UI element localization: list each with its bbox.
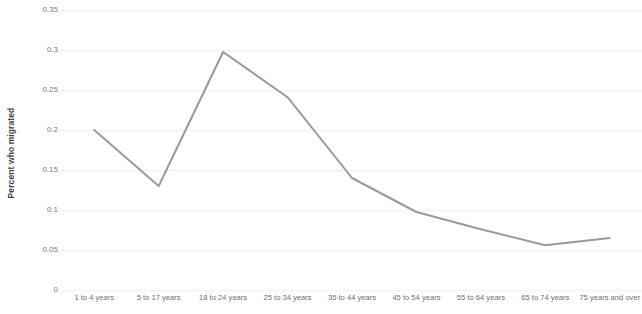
y-tick-label: 0 <box>14 286 58 294</box>
y-axis-tick-labels: 00.050.10.150.20.250.30.35 <box>14 0 58 314</box>
y-tick-label: 0.2 <box>14 126 58 134</box>
y-tick-label: 0.15 <box>14 166 58 174</box>
y-tick-label: 0.25 <box>14 86 58 94</box>
x-tick-label: 35 to 44 years <box>328 294 376 302</box>
series-line-percent-who-migrated <box>94 52 610 245</box>
y-tick-label: 0.35 <box>14 6 58 14</box>
line-chart: Percent who migrated 00.050.10.150.20.25… <box>0 0 642 314</box>
x-tick-label: 75 years and over <box>579 294 640 302</box>
x-tick-label: 5 to 17 years <box>137 294 181 302</box>
plot-area <box>62 0 642 314</box>
x-tick-label: 55 to 64 years <box>457 294 505 302</box>
y-tick-label: 0.1 <box>14 206 58 214</box>
x-tick-label: 1 to 4 years <box>74 294 114 302</box>
x-tick-label: 45 to 54 years <box>392 294 440 302</box>
series-layer <box>62 0 642 314</box>
x-axis-tick-labels: 1 to 4 years5 to 17 years18 to 24 years2… <box>62 289 642 314</box>
x-tick-label: 25 to 34 years <box>263 294 311 302</box>
y-tick-label: 0.05 <box>14 246 58 254</box>
x-tick-label: 65 to 74 years <box>521 294 569 302</box>
y-tick-label: 0.3 <box>14 46 58 54</box>
x-tick-label: 18 to 24 years <box>199 294 247 302</box>
